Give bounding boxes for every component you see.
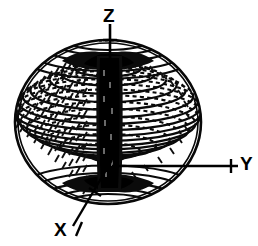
polar-spindle [96, 56, 122, 190]
sphere-axes-diagram [0, 0, 258, 246]
y-axis-label: Y [240, 154, 253, 173]
figure-container: Z Y X [0, 0, 258, 246]
x-axis-slash-mark [76, 222, 82, 236]
z-axis-label: Z [103, 6, 115, 25]
x-axis-label: X [54, 220, 67, 239]
